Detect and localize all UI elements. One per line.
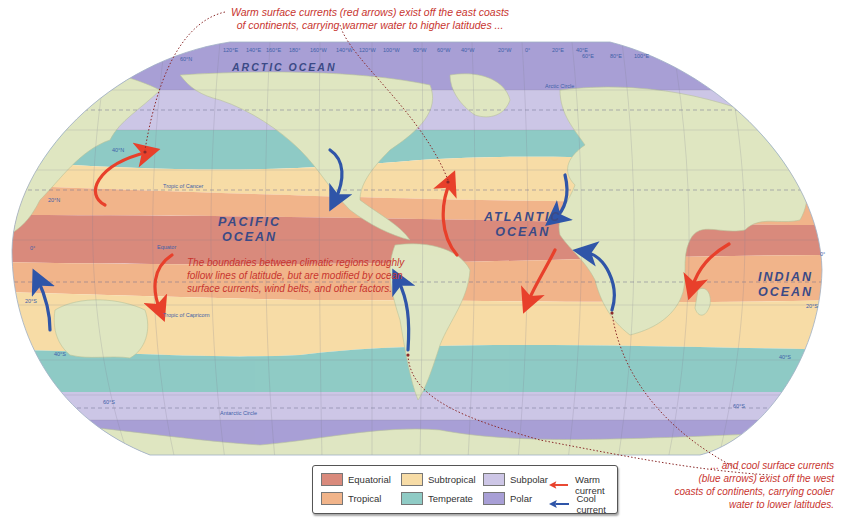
legend-label: Subpolar [510, 474, 548, 485]
lat-label-40s-right: 40°S [779, 354, 791, 360]
equatorial-swatch [321, 473, 343, 486]
legend-label: Subtropical [428, 474, 476, 485]
cool-annotation-line2: (blue arrows) exist off the west [594, 472, 834, 485]
warm-annotation-line1: Warm surface currents (red arrows) exist… [230, 6, 510, 19]
legend-label: Equatorial [348, 474, 391, 485]
warm-currents-annotation: Warm surface currents (red arrows) exist… [230, 6, 510, 32]
lon-label: 140°W [336, 47, 353, 53]
equator-label: Equator [157, 244, 176, 250]
boundaries-annotation-line1: The boundaries between climatic regions … [187, 256, 404, 269]
lon-label: 80°W [413, 47, 427, 53]
legend-label: Cool current [576, 493, 617, 515]
cool-annotation-line4: water to lower latitudes. [594, 498, 834, 511]
lat-label-0-left: 0° [30, 245, 35, 251]
lon-label: 100°E [634, 53, 649, 59]
subtropical-swatch [401, 473, 423, 486]
lat-label-20s-right: 20°S [806, 303, 818, 309]
lon-label: 20°E [552, 47, 564, 53]
lon-label: 160°E [266, 47, 281, 53]
lon-label: 80°E [610, 53, 622, 59]
lon-label: 100°W [383, 47, 400, 53]
legend-item-polar: Polar [483, 492, 532, 505]
legend-item-cool-current: Cool current [549, 493, 617, 515]
cool-current-arrow-icon [549, 499, 569, 509]
boundaries-annotation-line2: follow lines of latitude, but are modifi… [187, 269, 404, 282]
lat-label-20n: 20°N [48, 197, 60, 203]
legend-item-temperate: Temperate [401, 492, 473, 505]
antarctic-circle-label: Antarctic Circle [220, 410, 257, 416]
lat-label-40n: 40°N [112, 147, 124, 153]
indian-ocean-label: INDIAN OCEAN [758, 270, 813, 300]
lat-label-40s-left: 40°S [54, 351, 66, 357]
lon-label: 180° [289, 47, 300, 53]
subpolar-band-south [0, 392, 844, 420]
legend-label: Tropical [348, 493, 381, 504]
legend-item-equatorial: Equatorial [321, 473, 391, 486]
lon-label: 120°W [359, 47, 376, 53]
temperate-swatch [401, 492, 423, 505]
legend-item-subpolar: Subpolar [483, 473, 548, 486]
polar-swatch [483, 492, 505, 505]
lat-label-60n: 60°N [180, 56, 192, 62]
subpolar-swatch [483, 473, 505, 486]
indian-ocean-label-line1: INDIAN [758, 270, 813, 285]
world-ocean-climate-map [0, 0, 844, 528]
atlantic-ocean-label-line1: ATLANTIC [484, 210, 562, 225]
pacific-ocean-label-line2: OCEAN [218, 230, 281, 245]
tropic-of-cancer-label: Tropic of Cancer [163, 183, 203, 189]
lon-label: 160°W [310, 47, 327, 53]
legend-label: Temperate [428, 493, 473, 504]
lat-label-0-right: 0° [820, 251, 825, 257]
legend-item-subtropical: Subtropical [401, 473, 476, 486]
warm-annotation-line2: of continents, carrying warmer water to … [230, 19, 510, 32]
cool-annotation-line3: coasts of continents, carrying cooler [594, 485, 834, 498]
lon-label: 20°W [498, 47, 512, 53]
lon-label: 60°E [582, 53, 594, 59]
atlantic-ocean-label: ATLANTIC OCEAN [484, 210, 562, 240]
indian-ocean-label-line2: OCEAN [758, 285, 813, 300]
cool-annotation-line1: ... and cool surface currents [594, 459, 834, 472]
boundaries-annotation: The boundaries between climatic regions … [187, 256, 404, 295]
australia-land [54, 300, 147, 358]
map-legend: Equatorial Tropical Subtropical Temperat… [312, 465, 618, 514]
lon-label: 40°W [461, 47, 475, 53]
lat-label-60s-right: 60°S [733, 403, 745, 409]
boundaries-annotation-line3: surface currents, wind belts, and other … [187, 282, 404, 295]
atlantic-ocean-label-line2: OCEAN [484, 225, 562, 240]
lon-label: 60°W [437, 47, 451, 53]
pacific-ocean-label-line1: PACIFIC [218, 215, 281, 230]
legend-item-tropical: Tropical [321, 492, 381, 505]
lon-label: 140°E [246, 47, 261, 53]
legend-label: Polar [510, 493, 532, 504]
arctic-circle-label: Arctic Circle [545, 83, 574, 89]
warm-current-arrow-icon [549, 480, 568, 490]
cool-currents-annotation: ... and cool surface currents (blue arro… [594, 459, 834, 511]
lat-label-60s-left: 60°S [103, 399, 115, 405]
lon-label: 120°E [223, 47, 238, 53]
lon-label: 0° [525, 47, 530, 53]
tropical-swatch [321, 492, 343, 505]
arctic-ocean-label: ARCTIC OCEAN [232, 60, 337, 75]
lat-label-20s-left: 20°S [25, 298, 37, 304]
tropic-of-capricorn-label: Tropic of Capricorn [163, 312, 210, 318]
pacific-ocean-label: PACIFIC OCEAN [218, 215, 281, 245]
